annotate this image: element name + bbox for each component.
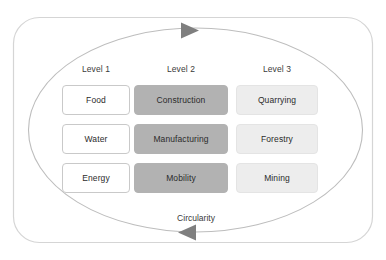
cell-level-1-food[interactable]: Food [62,85,130,115]
cell-level-3-forestry[interactable]: Forestry [236,124,318,154]
cell-level-2-mobility[interactable]: Mobility [134,163,228,193]
column-header-level-3: Level 3 [236,64,318,74]
circularity-label: Circularity [156,213,236,223]
cell-level-1-water[interactable]: Water [62,124,130,154]
cell-level-2-construction[interactable]: Construction [134,85,228,115]
cell-level-3-quarrying[interactable]: Quarrying [236,85,318,115]
column-header-level-1: Level 1 [62,64,130,74]
cell-level-2-manufacturing[interactable]: Manufacturing [134,124,228,154]
column-header-level-2: Level 2 [134,64,228,74]
levels-grid: Level 1 Level 2 Level 3 Food Water Energ… [0,0,386,260]
cell-level-1-energy[interactable]: Energy [62,163,130,193]
cell-level-3-mining[interactable]: Mining [236,163,318,193]
circularity-diagram: Level 1 Level 2 Level 3 Food Water Energ… [0,0,386,260]
